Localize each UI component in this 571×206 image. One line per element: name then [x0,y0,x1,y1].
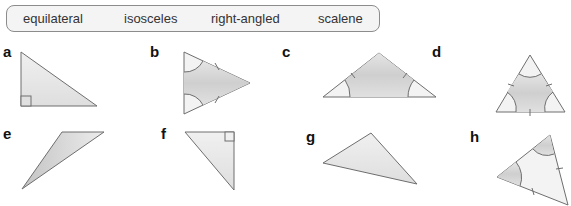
triangle-d [496,55,565,116]
triangle-f [185,132,234,190]
right-angle-mark [21,96,31,106]
triangle-a [21,52,97,106]
triangle-g [323,133,417,184]
triangle-h [497,135,568,205]
triangles-figure [0,0,571,206]
triangle-b [184,52,250,114]
triangle-c [323,53,436,97]
right-angle-mark [225,132,234,141]
triangle-e [22,132,104,189]
